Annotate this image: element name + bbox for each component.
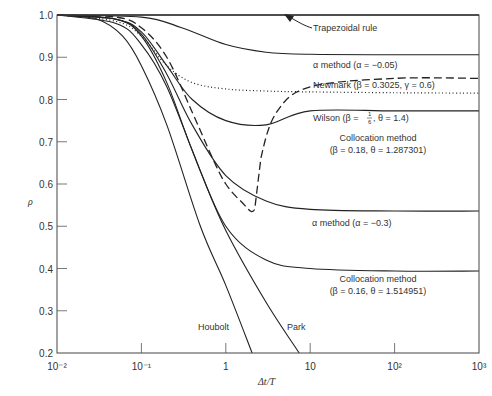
svg-text:6: 6 (368, 119, 372, 125)
y-axis-title: ρ (27, 196, 33, 207)
series-line (57, 15, 479, 271)
series-line (57, 15, 299, 353)
series-line (57, 15, 252, 353)
trapezoidal-arrow-icon (284, 14, 312, 28)
x-axis: 10⁻²10⁻¹11010²10³ (47, 343, 487, 372)
label-park: Park (287, 322, 306, 332)
y-tick-label: 1.0 (39, 10, 53, 21)
x-axis-title: Δt/T (257, 376, 276, 387)
series-line (57, 15, 479, 125)
y-tick-label: 0.2 (39, 348, 53, 359)
y-tick-label: 0.4 (39, 264, 53, 275)
y-tick-label: 0.5 (39, 221, 53, 232)
label-alpha-03: α method (α = −0.3) (312, 218, 391, 228)
label-houbolt: Houbolt (198, 322, 230, 332)
curves (57, 15, 479, 353)
y-tick-label: 0.9 (39, 52, 53, 63)
y-tick-label: 0.7 (39, 137, 53, 148)
svg-text:1: 1 (368, 111, 372, 117)
stability-chart: 0.20.30.40.50.60.70.80.91.0 10⁻²10⁻¹1101… (0, 0, 492, 396)
x-tick-label: 10³ (472, 361, 487, 372)
label-collocation-018: Collocation method (339, 133, 416, 143)
x-tick-label: 1 (223, 361, 229, 372)
plot-frame (57, 15, 479, 353)
x-tick-label: 10 (305, 361, 317, 372)
x-tick-label: 10⁻¹ (132, 361, 152, 372)
y-tick-label: 0.6 (39, 179, 53, 190)
series-line (57, 15, 479, 212)
y-tick-label: 0.8 (39, 95, 53, 106)
y-tick-label: 0.3 (39, 306, 53, 317)
x-tick-label: 10⁻² (47, 361, 67, 372)
series-line (57, 15, 479, 211)
x-tick-label: 10² (387, 361, 402, 372)
y-axis: 0.20.30.40.50.60.70.80.91.0 (39, 10, 67, 359)
svg-text:Wilson (β =: Wilson (β = (313, 113, 358, 123)
label-wilson: Wilson (β = 1 6 , θ = 1.4) (313, 111, 409, 125)
label-newmark: Newmark (β = 0.3025, γ = 0.6) (313, 80, 435, 90)
label-collocation-016: Collocation method (339, 274, 416, 284)
label-collocation-016-params: (β = 0.16, θ = 1.514951) (330, 286, 427, 296)
label-collocation-018-params: (β = 0.18, θ = 1.287301) (330, 145, 427, 155)
label-trapezoidal: Trapezoidal rule (313, 23, 377, 33)
label-alpha-005: α method (α = −0.05) (313, 60, 397, 70)
svg-text:, θ = 1.4): , θ = 1.4) (373, 113, 409, 123)
